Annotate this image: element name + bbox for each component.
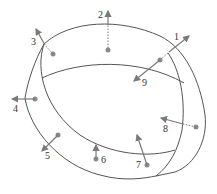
mobius-strip-diagram — [0, 0, 217, 194]
label-9: 9 — [142, 78, 147, 88]
label-1: 1 — [174, 32, 179, 42]
label-8: 8 — [163, 124, 168, 134]
label-3: 3 — [31, 37, 36, 47]
label-6: 6 — [101, 155, 106, 165]
label-4: 4 — [13, 104, 18, 114]
strip-outline — [25, 24, 205, 179]
label-5: 5 — [45, 151, 50, 161]
vector-5 — [42, 133, 61, 152]
vector-2 — [106, 11, 111, 53]
vector-6 — [94, 145, 99, 162]
vector-9 — [134, 58, 163, 82]
label-7: 7 — [136, 160, 141, 170]
label-2: 2 — [98, 10, 103, 20]
